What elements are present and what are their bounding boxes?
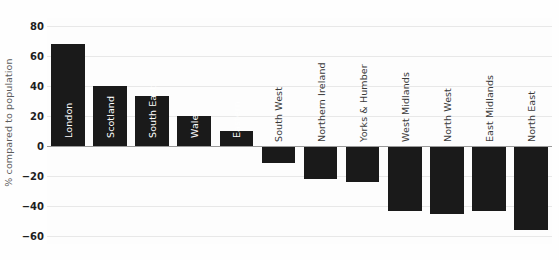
plot-area: LondonScotlandSouth EastWalesEasternSout… xyxy=(47,18,552,244)
bar[interactable] xyxy=(430,146,464,214)
bar-label: South West xyxy=(273,87,284,142)
bar-label: London xyxy=(63,103,74,138)
y-axis-title-text: % compared to population xyxy=(3,58,14,186)
bar-label: North West xyxy=(441,88,452,142)
bar[interactable] xyxy=(514,146,548,230)
bar[interactable] xyxy=(262,146,296,163)
y-tick-label: 80 xyxy=(30,20,44,31)
bar[interactable] xyxy=(472,146,506,211)
y-tick-label: 0 xyxy=(37,141,44,152)
bar-label: Yorks & Humber xyxy=(357,64,368,142)
bar[interactable] xyxy=(304,146,338,179)
y-tick-label: −60 xyxy=(22,231,44,242)
y-tick-label: 20 xyxy=(30,110,44,121)
bar[interactable] xyxy=(388,146,422,211)
bar-chart: % compared to population 806040200−20−40… xyxy=(0,0,559,260)
y-tick-label: 40 xyxy=(30,80,44,91)
bar[interactable] xyxy=(346,146,380,182)
y-tick-label: −20 xyxy=(22,171,44,182)
bar-label: Scotland xyxy=(105,96,116,138)
bar-label: Eastern xyxy=(231,101,242,138)
bar-label: East Midlands xyxy=(483,75,494,142)
y-tick-label: 60 xyxy=(30,50,44,61)
bar-label: West Midlands xyxy=(399,72,410,142)
bar-label: South East xyxy=(147,86,158,138)
bar-label: Wales xyxy=(189,110,200,139)
y-tick-label: −40 xyxy=(22,201,44,212)
bar-label: North East xyxy=(525,91,536,142)
bars-layer: LondonScotlandSouth EastWalesEasternSout… xyxy=(47,18,552,244)
zero-axis-line xyxy=(47,146,552,147)
y-axis-tick-labels: 806040200−20−40−60 xyxy=(14,0,44,260)
bar-label: Northern Ireland xyxy=(315,62,326,142)
